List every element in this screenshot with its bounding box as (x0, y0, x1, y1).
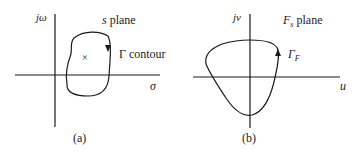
gamma-contour-label: Γ contour (119, 48, 166, 60)
pole-marker: × (82, 53, 88, 63)
fs-plane-label: Fs plane (283, 14, 322, 29)
s-plane-label: s plane (102, 14, 136, 26)
jw-axis-label: jω (36, 12, 47, 23)
caption-a: (a) (73, 132, 86, 144)
panel-a-s-plane: jω s plane Γ contour × σ (a) (0, 0, 178, 154)
gamma-f-contour (206, 40, 279, 115)
gamma-f-contour-label: ΓF (288, 48, 300, 63)
contour-direction-arrow-icon (275, 49, 281, 56)
fs-plane-diagram (178, 0, 357, 154)
sigma-axis-label: σ (150, 80, 156, 92)
u-axis-label: u (340, 80, 346, 92)
jv-axis-label: jv (233, 12, 241, 23)
s-plane-diagram (0, 0, 178, 154)
gamma-contour (66, 32, 110, 96)
caption-b: (b) (242, 132, 256, 144)
panel-b-fs-plane: jv Fs plane ΓF u (b) (178, 0, 357, 154)
